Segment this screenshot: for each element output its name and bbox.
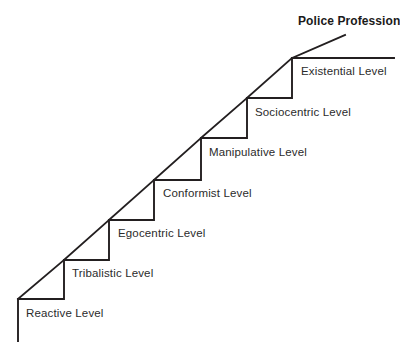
label-layer: Police Profession Reactive Level Tribali… bbox=[0, 0, 400, 352]
step-label-conformist: Conformist Level bbox=[163, 187, 252, 199]
step-label-existential: Existential Level bbox=[301, 65, 387, 77]
step-label-manipulative: Manipulative Level bbox=[209, 146, 307, 158]
diagram-title: Police Profession bbox=[298, 14, 400, 28]
step-label-tribalistic: Tribalistic Level bbox=[72, 267, 153, 279]
step-label-reactive: Reactive Level bbox=[26, 307, 104, 319]
step-label-egocentric: Egocentric Level bbox=[118, 227, 205, 239]
staircase-diagram: Police Profession Reactive Level Tribali… bbox=[0, 0, 400, 352]
step-label-sociocentric: Sociocentric Level bbox=[255, 106, 351, 118]
